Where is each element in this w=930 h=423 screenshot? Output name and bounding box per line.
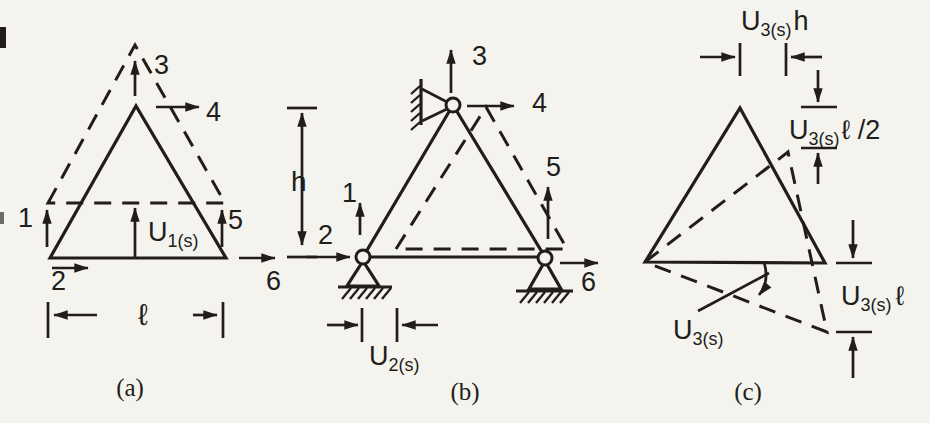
rotation-leader-line: [698, 273, 769, 311]
rotated-triangle-dashed: [645, 152, 827, 332]
mode-label-u1s: U1(s): [148, 217, 199, 251]
left-node: [356, 250, 370, 264]
ground-hatch: [358, 288, 367, 299]
scan-artifact: [0, 212, 4, 224]
solid-triangle: [363, 105, 545, 257]
ground-hatch: [536, 292, 545, 303]
pin-support-right: [516, 261, 573, 303]
dof4-label: 4: [206, 97, 221, 127]
dim-width-label: ℓ: [138, 298, 148, 331]
ground-hatch: [528, 292, 537, 303]
ground-hatch: [520, 292, 529, 303]
dof2-label: 2: [318, 220, 333, 250]
diagram-b: 1 2 3 4 5 6 h U2(s) (b): [287, 41, 598, 406]
dim-height-label: h: [291, 166, 307, 197]
apex-node: [446, 98, 460, 112]
caption-a: (a): [116, 374, 144, 402]
dof2-label: 2: [51, 266, 66, 296]
displaced-triangle-dashed: [396, 107, 567, 249]
dof1-label: 1: [342, 178, 357, 208]
dof6-label: 6: [581, 267, 596, 297]
wall-hatch: [411, 104, 420, 112]
caption-c: (c): [734, 378, 762, 406]
wall-hatch: [411, 122, 420, 130]
right-node: [538, 251, 552, 265]
ground-hatch: [382, 288, 391, 299]
dim-label-u3s-h: U3(s)h: [741, 6, 809, 40]
dof6-label: 6: [266, 266, 281, 296]
wall-hatch: [411, 113, 420, 121]
diagram-a: 1 2 3 4 5 6 U1(s) ℓ (a): [18, 45, 281, 402]
link-bar: [422, 89, 447, 102]
ground-hatch: [544, 292, 553, 303]
dim-label-u3s-l2: U3(s)ℓ /2: [789, 115, 880, 149]
wall-hatch: [411, 86, 420, 94]
ground-hatch: [374, 288, 383, 299]
dof5-label: 5: [228, 205, 243, 235]
wall-hatch: [411, 95, 420, 103]
ground-hatch: [342, 288, 351, 299]
dof3-label: 3: [154, 50, 169, 80]
dof1-label: 1: [18, 203, 33, 233]
mode-label-u2s: U2(s): [369, 341, 420, 375]
ground-hatch: [350, 288, 359, 299]
displaced-triangle-dashed: [48, 45, 225, 203]
diagram-c: U3(s)h U3(s)ℓ /2 U3(s)ℓ U3(s) (c): [645, 6, 905, 406]
dim-label-u3s-l: U3(s)ℓ: [841, 281, 905, 315]
rotation-label-u3s: U3(s): [673, 315, 724, 349]
scan-artifact: [0, 27, 6, 48]
caption-b: (b): [450, 378, 479, 406]
ground-hatch: [366, 288, 375, 299]
dof4-label: 4: [532, 88, 547, 118]
ground-hatch: [552, 292, 561, 303]
pin-support-left: [338, 261, 392, 299]
dof3-label: 3: [472, 41, 487, 71]
dof5-label: 5: [546, 152, 561, 182]
figure-canvas: 1 2 3 4 5 6 U1(s) ℓ (a): [0, 0, 930, 423]
ground-hatch: [560, 292, 569, 303]
solid-triangle: [50, 106, 226, 258]
scanned-figure-page: 1 2 3 4 5 6 U1(s) ℓ (a): [0, 0, 930, 423]
